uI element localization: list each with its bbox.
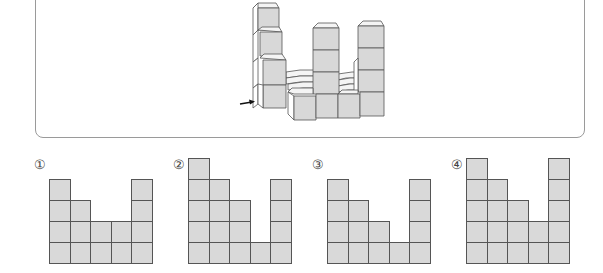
cube-cell xyxy=(90,221,112,243)
cube-cell xyxy=(49,221,71,243)
cube-cell xyxy=(131,221,153,243)
option-number-label: ④ xyxy=(450,158,464,172)
cube-cell xyxy=(466,242,488,264)
cube-cell xyxy=(409,179,431,201)
cube-cell xyxy=(487,200,509,222)
cube-cell xyxy=(487,242,509,264)
option-number-label: ① xyxy=(33,158,47,172)
cube-cell xyxy=(409,200,431,222)
cube-cell xyxy=(507,242,529,264)
cube-cell xyxy=(528,221,550,243)
cube-cell xyxy=(188,179,210,201)
cube-cell xyxy=(111,242,133,264)
cube-cell xyxy=(507,221,529,243)
cube-cell xyxy=(548,200,570,222)
cube-cell xyxy=(487,221,509,243)
option-number-label: ③ xyxy=(311,158,325,172)
cube-cell xyxy=(466,179,488,201)
cube-cell xyxy=(487,179,509,201)
cube-cell xyxy=(348,221,370,243)
cube-cell xyxy=(209,242,231,264)
cube-cell xyxy=(229,200,251,222)
cube-cell xyxy=(229,221,251,243)
cube-cell xyxy=(327,200,349,222)
cube-cell xyxy=(188,242,210,264)
cube-cell xyxy=(111,221,133,243)
cube-cell xyxy=(389,242,411,264)
cube-cell xyxy=(270,221,292,243)
cube-structure-figure xyxy=(230,0,400,130)
cube-cell xyxy=(70,242,92,264)
cube-cell xyxy=(466,200,488,222)
cube-cell xyxy=(327,242,349,264)
front-view-grid xyxy=(49,158,152,263)
cube-cell xyxy=(131,242,153,264)
cube-cell xyxy=(348,200,370,222)
front-view-grid xyxy=(188,158,291,263)
cube-cell xyxy=(270,242,292,264)
cube-cell xyxy=(348,242,370,264)
cube-cell xyxy=(209,179,231,201)
cube-cell xyxy=(131,200,153,222)
cube-cell xyxy=(188,200,210,222)
cube-cell xyxy=(209,221,231,243)
cube-cell xyxy=(70,221,92,243)
cube-cell xyxy=(528,242,550,264)
cube-cell xyxy=(250,242,272,264)
cube-cell xyxy=(409,242,431,264)
front-view-grid xyxy=(466,158,569,263)
cube-cell xyxy=(466,158,488,180)
cube-cell xyxy=(229,242,251,264)
cube-cell xyxy=(49,179,71,201)
cube-cell xyxy=(327,179,349,201)
front-view-grid xyxy=(327,158,430,263)
cube-cell xyxy=(327,221,349,243)
cube-cell xyxy=(548,242,570,264)
cube-cell xyxy=(49,200,71,222)
cube-cell xyxy=(188,221,210,243)
cube-cell xyxy=(548,158,570,180)
cube-cell xyxy=(548,221,570,243)
cube-cell xyxy=(466,221,488,243)
cube-cell xyxy=(507,200,529,222)
cube-cell xyxy=(131,179,153,201)
cube-cell xyxy=(188,158,210,180)
option-number-label: ② xyxy=(172,158,186,172)
cube-cell xyxy=(90,242,112,264)
cube-cell xyxy=(49,242,71,264)
cube-cell xyxy=(270,200,292,222)
cube-cell xyxy=(368,242,390,264)
cube-cell xyxy=(548,179,570,201)
cube-cell xyxy=(70,200,92,222)
cube-cell xyxy=(270,179,292,201)
cube-cell xyxy=(409,221,431,243)
cube-cell xyxy=(368,221,390,243)
cube-cell xyxy=(209,200,231,222)
